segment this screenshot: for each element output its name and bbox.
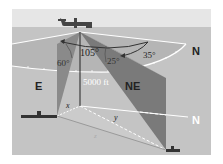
direction-ne-label: NE — [125, 80, 140, 92]
direction-e-label: E — [35, 80, 42, 92]
segment-x-label: x — [65, 101, 70, 110]
bearing-diagram: 105° 60° 25° 35° 5000 ft E NE N N x y z — [0, 0, 223, 164]
segment-z-label: z — [93, 132, 97, 140]
sky — [12, 9, 211, 27]
angle-60-label: 60° — [57, 58, 70, 68]
altitude-label: 5000 ft — [83, 77, 109, 87]
angle-105-label: 105° — [80, 47, 99, 58]
direction-n-top-label: N — [192, 45, 200, 57]
direction-n-bottom-label: N — [192, 114, 200, 126]
angle-35-label: 35° — [143, 50, 156, 60]
angle-25-label: 25° — [107, 56, 120, 66]
segment-y-label: y — [113, 113, 118, 122]
